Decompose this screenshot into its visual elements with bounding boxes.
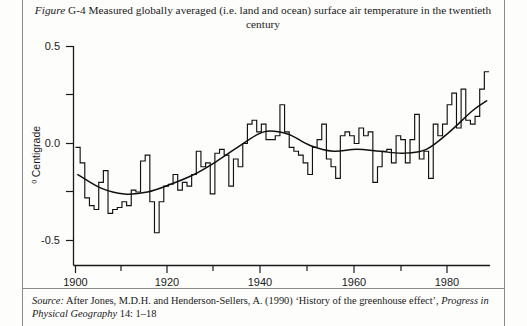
x-tick-label-1980: 1980 — [435, 276, 459, 288]
axes — [74, 46, 491, 266]
annual-anomaly-series — [76, 72, 490, 233]
source-text-after: 14: 1–18 — [117, 308, 156, 319]
temperature-chart: 0.5 0.0 -0.5 1900 1920 1940 1960 1980 ⁰ … — [0, 0, 527, 290]
figure-page: Figure G-4 Measured globally averaged (i… — [0, 0, 527, 326]
y-tick-label-1: 0.0 — [45, 137, 60, 149]
source-text-before: After Jones, M.D.H. and Henderson-Seller… — [64, 295, 439, 306]
x-tick-label-1920: 1920 — [155, 276, 179, 288]
smoothed-trend-series — [78, 101, 487, 194]
x-tick-label-1900: 1900 — [63, 276, 87, 288]
x-tick-label-1960: 1960 — [342, 276, 366, 288]
chart-svg: 0.5 0.0 -0.5 1900 1920 1940 1960 1980 ⁰ … — [0, 0, 527, 290]
source-note: Source: After Jones, M.D.H. and Henderso… — [32, 294, 494, 321]
y-tick-label-2: -0.5 — [41, 234, 60, 246]
y-axis-title: ⁰ Centigrade — [30, 126, 42, 184]
y-tick-label-0: 0.5 — [45, 40, 60, 52]
x-axis-ticks — [76, 266, 448, 274]
x-tick-label-1940: 1940 — [248, 276, 272, 288]
source-label: Source: — [32, 295, 64, 306]
y-axis-ticks — [66, 47, 74, 241]
